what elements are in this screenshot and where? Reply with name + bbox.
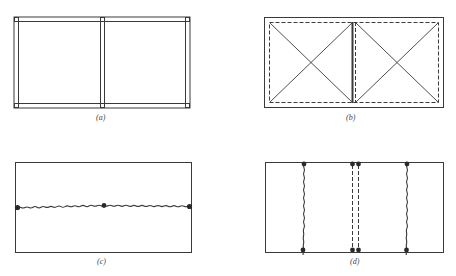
panel-a-joint (101, 18, 105, 22)
panel-d-dot (302, 162, 307, 167)
panel-a-joint (15, 18, 19, 22)
panel-b (265, 18, 444, 108)
panel-b-label: (b) (346, 113, 356, 122)
panel-b-dashed-outline (270, 23, 439, 103)
panel-a-outer-frame (14, 17, 190, 108)
panel-d-dot (301, 248, 306, 253)
panel-a-inner-frame-left (19, 22, 101, 104)
panel-a-joint (101, 104, 105, 108)
panel-d-frame (266, 163, 444, 253)
panel-d-dot (404, 248, 409, 253)
panel-a-joint (15, 104, 19, 108)
panel-c-dot-center (102, 203, 107, 208)
panel-d-yield-line-right (406, 164, 407, 255)
panel-a-joint (186, 104, 190, 108)
panel-d-yield-line-left (303, 164, 305, 255)
panel-c-dot-left (15, 205, 20, 210)
panel-a (14, 17, 190, 108)
panel-d-dot (356, 248, 361, 253)
panel-c-dot-right (187, 204, 192, 209)
panel-d-dot (405, 162, 410, 167)
figure-diagram: (a) (b) (c) (0, 0, 456, 276)
panel-d-dot (350, 248, 355, 253)
panel-a-label: (a) (96, 113, 106, 122)
panel-d-dot (356, 162, 361, 167)
panel-b-outer-frame (265, 18, 444, 108)
panel-d (266, 163, 444, 256)
panel-d-dot (350, 162, 355, 167)
panel-c-label: (c) (97, 257, 106, 266)
panel-d-support-dots (301, 162, 410, 253)
panel-d-label: (d) (350, 257, 360, 266)
panel-a-joint (186, 18, 190, 22)
panel-a-inner-frame-right (105, 22, 186, 104)
